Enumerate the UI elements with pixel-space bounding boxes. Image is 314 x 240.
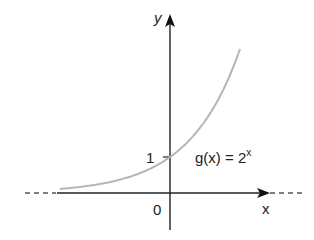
exponential-graph: y x 0 1 g(x) = 2x [0, 0, 314, 240]
x-axis-label: x [262, 200, 270, 217]
y-tick-label-1: 1 [146, 149, 154, 166]
curve-g-of-x [60, 49, 240, 189]
function-label-exponent: x [246, 147, 251, 158]
function-label-base: g(x) = 2 [195, 149, 246, 166]
y-axis-label: y [153, 9, 163, 26]
function-label: g(x) = 2x [195, 147, 251, 166]
origin-label: 0 [153, 201, 161, 218]
